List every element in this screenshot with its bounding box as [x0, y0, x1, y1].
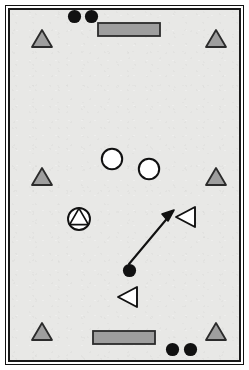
field-diagram-stage — [0, 0, 249, 370]
black-dot-center-ball — [122, 263, 137, 278]
motion-arrow-ball-to-player — [0, 0, 249, 370]
